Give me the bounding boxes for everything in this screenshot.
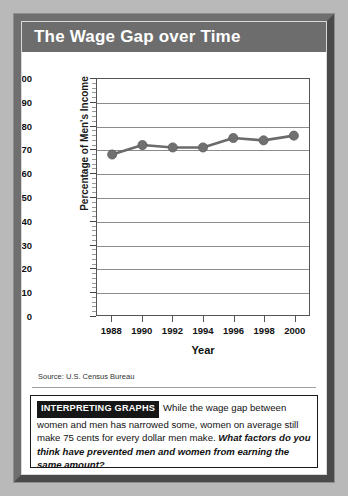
y-axis-tick-label: 90 — [21, 96, 32, 107]
figure-title-bar: The Wage Gap over Time — [22, 22, 326, 52]
source-note: Source: U.S. Census Bureau — [38, 372, 134, 381]
series-line-chart — [97, 79, 309, 315]
gridline — [97, 127, 309, 128]
plot-area — [96, 78, 310, 316]
y-axis-tick-label: 0 — [21, 311, 32, 322]
interpreting-graphs-badge: INTERPRETING GRAPHS — [37, 401, 159, 418]
data-point-marker — [229, 133, 238, 142]
gridline — [97, 246, 309, 247]
y-axis-tick-label: 30 — [21, 239, 32, 250]
y-axis-tick-label: 50 — [21, 192, 32, 203]
y-axis-tick-label: 20 — [21, 263, 32, 274]
x-axis-tick-mark — [142, 316, 143, 322]
x-axis-title: Year — [96, 344, 310, 356]
y-axis-tick-label: 80 — [21, 120, 32, 131]
caption-box: INTERPRETING GRAPHSWhile the wage gap be… — [30, 395, 318, 468]
source-divider — [32, 387, 316, 388]
x-axis-tick-mark — [264, 316, 265, 322]
y-axis-title: Percentage of Men's Income — [79, 44, 90, 244]
data-point-marker — [259, 136, 268, 145]
x-axis-tick-mark — [203, 316, 204, 322]
figure-title: The Wage Gap over Time — [22, 27, 241, 47]
figure-frame: The Wage Gap over Time Percentage of Men… — [14, 14, 334, 482]
y-axis-tick-label: 60 — [21, 168, 32, 179]
x-axis-tick-label: 2000 — [275, 325, 315, 336]
series-markers — [108, 131, 299, 159]
figure-inner: The Wage Gap over Time Percentage of Men… — [21, 21, 327, 475]
gridline — [97, 269, 309, 270]
y-axis-tick-label: 100 — [21, 73, 32, 84]
x-axis-tick-mark — [234, 316, 235, 322]
x-axis-tick-mark — [111, 316, 112, 322]
caption-paragraph: INTERPRETING GRAPHSWhile the wage gap be… — [37, 401, 311, 472]
y-axis-tick-label: 70 — [21, 144, 32, 155]
y-axis-tick-label: 40 — [21, 215, 32, 226]
gridline — [97, 103, 309, 104]
chart-region: Percentage of Men's Income 1009080706050… — [22, 52, 326, 474]
gridline — [97, 293, 309, 294]
gridline — [97, 174, 309, 175]
y-axis-tick-mark — [90, 316, 96, 317]
gridline — [97, 150, 309, 151]
data-point-marker — [138, 141, 147, 150]
x-axis-tick-mark — [172, 316, 173, 322]
y-axis-tick-label: 10 — [21, 287, 32, 298]
data-point-marker — [289, 131, 298, 140]
gridline — [97, 222, 309, 223]
gridline — [97, 198, 309, 199]
series-polyline — [112, 136, 294, 155]
x-axis-tick-mark — [295, 316, 296, 322]
